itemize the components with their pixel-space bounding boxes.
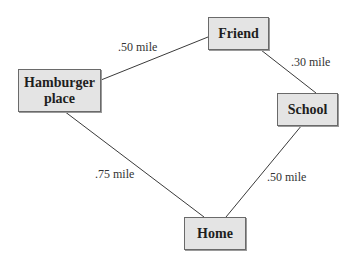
node-school-label: School — [288, 102, 328, 118]
node-friend: Friend — [208, 17, 269, 50]
node-home-label: Home — [197, 226, 233, 242]
node-hamburger-label: Hamburger place — [21, 75, 98, 107]
edge-hamburger-home — [64, 111, 204, 217]
edge-label-school-home: .50 mile — [267, 170, 306, 185]
node-friend-label: Friend — [218, 26, 258, 42]
edges-layer — [0, 0, 357, 264]
edge-label-hamburger-friend: .50 mile — [118, 40, 157, 55]
edge-label-hamburger-home: .75 mile — [95, 167, 134, 182]
node-school: School — [277, 93, 338, 126]
node-home: Home — [184, 217, 246, 250]
node-hamburger-place: Hamburger place — [18, 69, 101, 112]
edge-label-friend-school: .30 mile — [291, 55, 330, 70]
